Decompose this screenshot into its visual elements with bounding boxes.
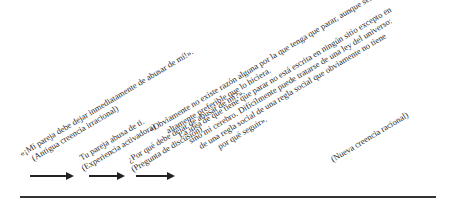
arrow-right-icon — [136, 175, 173, 177]
new-belief-line-3: La idea de que tiene que parar no está e… — [157, 4, 393, 151]
arrow-right-icon — [30, 175, 72, 177]
new-belief-text: «Obviamente no existe razón alguna por l… — [147, 0, 408, 177]
new-belief-label: (Nueva creencia racional) — [329, 110, 410, 164]
bottom-rule-divider — [20, 196, 436, 198]
arrow-right-icon — [89, 175, 123, 177]
